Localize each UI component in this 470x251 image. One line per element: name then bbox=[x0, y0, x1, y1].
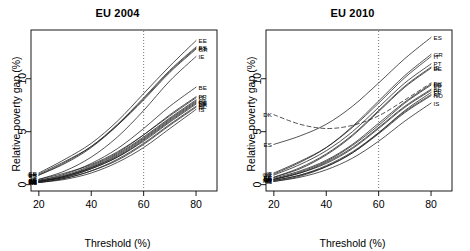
series-line-gr bbox=[274, 54, 431, 174]
series-label-left-is: IS bbox=[31, 179, 37, 186]
series-label-right-is: IS bbox=[434, 100, 440, 107]
x-tick-label: 60 bbox=[373, 198, 385, 210]
series-label-left-is: IS bbox=[266, 178, 272, 185]
series-label-right-fi: FI bbox=[434, 89, 440, 96]
x-tick-label: 40 bbox=[85, 198, 97, 210]
series-line-ie bbox=[274, 67, 431, 177]
series-line-fr bbox=[39, 97, 196, 181]
series-line-at bbox=[274, 95, 431, 181]
x-tick-label: 20 bbox=[268, 198, 280, 210]
x-tick-label: 80 bbox=[190, 198, 202, 210]
series-line-nl bbox=[39, 106, 196, 182]
series-label-right-es: ES bbox=[434, 34, 442, 41]
series-line-es bbox=[274, 37, 431, 144]
x-axis-label-eu2010: Threshold (%) bbox=[235, 237, 470, 249]
y-axis-label-eu2010: Relative poverty gap (%) bbox=[245, 44, 257, 184]
x-tick-label: 20 bbox=[33, 198, 45, 210]
series-line-at bbox=[39, 100, 196, 182]
y-axis-label-eu2004: Relative poverty gap (%) bbox=[10, 44, 22, 184]
series-label-right-is: IS bbox=[199, 106, 205, 113]
panel-eu2010: EU 2010 051020406080ESESGRGRITITPTPTIEIE… bbox=[235, 0, 470, 251]
panel-eu2004: EU 2004 051020406080EEEEESESPTPTGRGRIEIE… bbox=[0, 0, 235, 251]
series-label-right-be: BE bbox=[199, 84, 207, 91]
series-label-left-es: ES bbox=[264, 141, 272, 148]
plot-canvas-eu2004: 051020406080EEEEESESPTPTGRGRIEIEBEBEFRFR… bbox=[0, 0, 235, 251]
series-label-right-ie: IE bbox=[199, 53, 205, 60]
series-line-it bbox=[39, 98, 196, 180]
series-line-lu bbox=[274, 85, 431, 179]
series-label-right-ee: EE bbox=[434, 65, 442, 72]
series-line-be bbox=[39, 87, 196, 180]
series-line-it bbox=[274, 56, 431, 173]
series-label-left-dk: DK bbox=[263, 111, 272, 118]
x-axis-label-eu2004: Threshold (%) bbox=[0, 237, 235, 249]
x-tick-label: 40 bbox=[320, 198, 332, 210]
x-tick-label: 60 bbox=[138, 198, 150, 210]
series-label-right-gr: GR bbox=[199, 46, 209, 53]
x-tick-label: 80 bbox=[425, 198, 437, 210]
figure-root: EU 2004 051020406080EEEEESESPTPTGRGRIEIE… bbox=[0, 0, 470, 251]
series-line-se bbox=[39, 103, 196, 181]
plot-canvas-eu2010: 051020406080ESESGRGRITITPTPTIEIEEEEEDKDK… bbox=[235, 0, 470, 251]
series-label-right-it: IT bbox=[434, 53, 440, 60]
